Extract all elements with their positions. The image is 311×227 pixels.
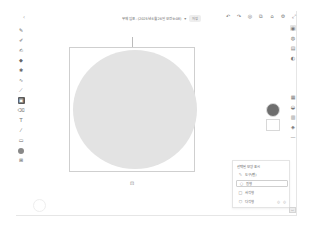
shape-options-panel: 선택된 모양 표시 ✎ 도구(펜) ○ 원형 □ 사각형 ⬡ 다각형 ◎ ◎ (232, 160, 290, 208)
pen-icon: ✎ (238, 172, 243, 177)
undo-icon[interactable]: ↶ (225, 13, 231, 19)
increase-sides-icon[interactable]: ◎ (283, 200, 286, 204)
line-tool-icon[interactable]: ⟋ (18, 87, 25, 94)
layers-panel-icon[interactable]: ◉ (290, 25, 296, 31)
image-tool-icon[interactable]: ⊞ (18, 157, 25, 164)
grid-icon[interactable]: ▦ (290, 94, 296, 100)
opacity-icon[interactable]: ◒ (290, 104, 296, 110)
settings-icon[interactable]: ⚙ (280, 13, 286, 19)
fill-tool-icon[interactable]: ◆ (18, 57, 25, 64)
shape-option-polygon[interactable]: ⬡ 다각형 ◎ ◎ (236, 198, 288, 205)
right-toolbar-secondary: ▦ ◒ ▥ ◈ — (289, 94, 297, 140)
shape-option-label: 도구(펜) (245, 172, 257, 177)
panel-toggle-button[interactable]: ▭ (289, 207, 296, 213)
fill-color-swatch[interactable] (266, 103, 280, 117)
redo-icon[interactable]: ↷ (236, 13, 242, 19)
polygon-sides-controls: ◎ ◎ (277, 200, 288, 204)
text-tool-icon[interactable]: T (18, 117, 25, 124)
decrease-sides-icon[interactable]: ◎ (277, 200, 280, 204)
shape-option-label: 원형 (246, 181, 252, 186)
top-actions: ↶ ↷ ◎ ⧉ ⌂ ⚙ ⤢ (225, 13, 297, 19)
back-icon[interactable]: ‹ (20, 13, 28, 21)
shape-option-label: 다각형 (245, 199, 254, 204)
brush-settings-icon[interactable]: ◍ (290, 35, 296, 41)
transform-icon[interactable]: ◈ (290, 124, 296, 130)
pencil-tool-icon[interactable]: ✐ (18, 37, 25, 44)
circle-icon: ○ (239, 181, 244, 186)
shape-option-pen[interactable]: ✎ 도구(펜) (236, 171, 288, 178)
rotate-handle[interactable] (132, 37, 133, 47)
shape-option-circle[interactable]: ○ 원형 (236, 180, 288, 187)
marker-tool-icon[interactable]: ✍ (18, 47, 25, 54)
brush-tool-icon[interactable]: ✎ (18, 27, 25, 34)
palette-icon[interactable]: ◐ (290, 55, 296, 61)
shape-option-rectangle[interactable]: □ 사각형 (236, 189, 288, 196)
stroke-color-swatch[interactable] (266, 119, 280, 131)
document-title-area[interactable]: 무제 임포 - (2025년 6월 26일 오전 9:08) ▾ 저장 (122, 14, 201, 22)
timer-icon[interactable]: ◎ (247, 13, 253, 19)
shape-option-label: 사각형 (245, 190, 254, 195)
left-toolbar: ✎ ✐ ✍ ◆ ✱ ∿ ⟋ ▣ ⌫ T ⁄ ▭ ⊞ (16, 27, 26, 164)
document-title[interactable]: 무제 임포 - (2025년 6월 26일 오전 9:08) (122, 16, 181, 21)
save-badge[interactable]: 저장 (189, 15, 201, 22)
top-bar: ‹ 무제 임포 - (2025년 6월 26일 오전 9:08) ▾ 저장 ↶ … (16, 11, 297, 25)
eraser-tool-icon[interactable]: ⌫ (18, 107, 25, 114)
align-icon[interactable]: ▥ (290, 114, 296, 120)
pan-joystick[interactable] (33, 199, 46, 212)
eyedropper-tool-icon[interactable]: ⁄ (18, 127, 25, 134)
shape-tool-icon[interactable]: ▣ (18, 97, 25, 104)
minus-icon[interactable]: — (290, 134, 296, 140)
chevron-down-icon[interactable]: ▾ (184, 16, 186, 21)
ruler-tool-icon[interactable]: ▭ (18, 137, 25, 144)
stamp-tool-icon[interactable]: ✱ (18, 67, 25, 74)
color-dot (18, 148, 24, 154)
curve-tool-icon[interactable]: ∿ (18, 77, 25, 84)
panel-title: 선택된 모양 표시 (237, 164, 260, 169)
square-icon: □ (238, 190, 243, 195)
adjust-icon[interactable]: ▤ (290, 45, 296, 51)
canvas-options-icon[interactable]: ⊡ (129, 180, 135, 186)
right-toolbar: ◉ ◍ ▤ ◐ (289, 25, 297, 61)
expand-icon[interactable]: ⤢ (291, 13, 297, 19)
circle-shape[interactable] (73, 50, 197, 169)
layers-icon[interactable]: ⧉ (258, 13, 264, 19)
polygon-icon: ⬡ (238, 199, 243, 204)
share-icon[interactable]: ⌂ (269, 13, 275, 19)
color-tool-icon[interactable] (18, 147, 25, 154)
